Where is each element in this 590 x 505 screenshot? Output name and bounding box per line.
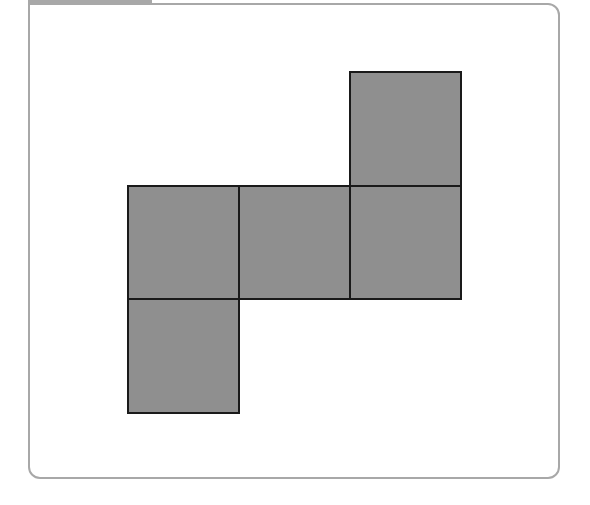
- square-middle-right: [349, 185, 462, 301]
- square-top-right: [349, 71, 462, 187]
- square-bottom-left: [127, 298, 240, 414]
- square-middle-left: [127, 185, 240, 301]
- square-middle-center: [238, 185, 351, 301]
